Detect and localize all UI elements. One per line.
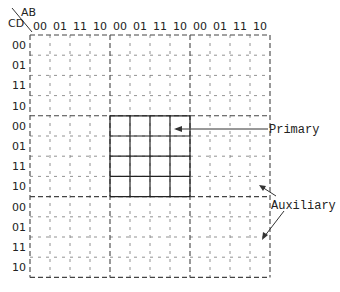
auxiliary-label: Auxiliary [271, 199, 336, 213]
row-label: 01 [12, 140, 26, 153]
primary-arrow [174, 126, 268, 132]
column-labels: 000111100001111000011110 [33, 20, 267, 33]
row-label: 00 [12, 201, 26, 214]
column-label: 10 [253, 20, 267, 33]
row-labels: 000111100001111000011110 [12, 39, 26, 274]
column-label: 11 [153, 20, 167, 33]
arrow-head-icon [174, 126, 182, 132]
arrow-head-icon [259, 185, 266, 191]
row-label: 10 [12, 180, 26, 193]
row-variable-label: CD [8, 17, 24, 30]
row-label: 01 [12, 221, 26, 234]
column-label: 00 [33, 20, 47, 33]
row-label: 00 [12, 39, 26, 52]
row-label: 11 [12, 79, 26, 92]
column-label: 01 [213, 20, 227, 33]
column-label: 01 [53, 20, 67, 33]
row-label: 01 [12, 59, 26, 72]
column-label: 11 [73, 20, 87, 33]
row-label: 00 [12, 120, 26, 133]
row-label: 11 [12, 160, 26, 173]
row-label: 10 [12, 100, 26, 113]
column-label: 10 [173, 20, 187, 33]
column-label: 10 [93, 20, 107, 33]
karnaugh-map-diagram: AB CD 000111100001111000011110 000111100… [0, 0, 340, 292]
column-label: 11 [233, 20, 247, 33]
row-label: 10 [12, 261, 26, 274]
column-label: 01 [133, 20, 147, 33]
column-label: 00 [193, 20, 207, 33]
row-label: 11 [12, 241, 26, 254]
primary-label: Primary [269, 123, 319, 137]
column-label: 00 [113, 20, 127, 33]
